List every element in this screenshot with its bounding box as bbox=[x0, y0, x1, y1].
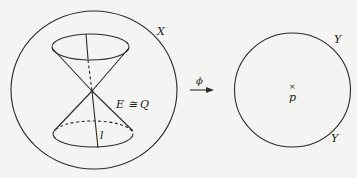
space-x-circle bbox=[11, 11, 177, 169]
label-line-l: l bbox=[100, 130, 104, 141]
label-space-x: X bbox=[157, 26, 165, 37]
label-map-phi: ϕ bbox=[196, 76, 203, 86]
lower-cone-left-side bbox=[54, 91, 92, 131]
diagram-canvas: X E ≅ Q l ϕ Y Y × p bbox=[0, 0, 357, 178]
upper-cone-right-side bbox=[92, 48, 129, 91]
lower-cone-rim-front bbox=[53, 134, 133, 147]
label-cone-e-q: E ≅ Q bbox=[116, 99, 149, 110]
line-l-bottom bbox=[92, 91, 98, 148]
line-l-top bbox=[86, 34, 88, 59]
label-point-p: p bbox=[289, 92, 296, 103]
lower-cone-rim-back bbox=[53, 121, 133, 134]
diagram-svg bbox=[0, 0, 357, 178]
apex-point bbox=[91, 90, 94, 93]
point-p-marker: × bbox=[289, 83, 296, 91]
lower-cone-right-side bbox=[92, 91, 133, 131]
upper-cone-rim bbox=[52, 34, 129, 60]
label-curve-y-bottom: Y bbox=[331, 133, 338, 144]
upper-cone-left-side bbox=[52, 48, 92, 91]
map-arrow-head bbox=[206, 87, 214, 93]
line-l-hidden bbox=[88, 60, 92, 91]
label-curve-y-top: Y bbox=[334, 34, 341, 45]
